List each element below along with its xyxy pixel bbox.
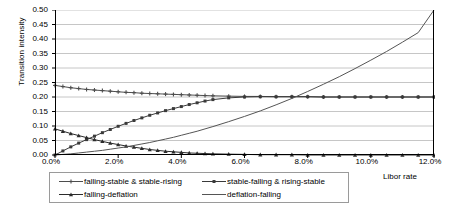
x-tick-label: 6.0% — [219, 158, 263, 166]
x-tick-label: 2.0% — [92, 158, 136, 166]
legend-key-square-icon — [201, 176, 227, 187]
x-tick-label: 8.0% — [282, 158, 326, 166]
y-tick-label: 0.20 — [2, 93, 48, 101]
plot-area — [51, 10, 430, 155]
y-axis-tick-labels: 0.000.050.100.150.200.250.300.350.400.45… — [0, 0, 48, 165]
legend-label: stable-falling & rising-stable — [227, 177, 325, 186]
legend-item-stable-falling-rising-stable: stable-falling & rising-stable — [201, 175, 348, 188]
legend-item-falling-deflation: falling-deflation — [50, 188, 201, 201]
chart-legend: falling-stable & stable-rising stable-fa… — [49, 172, 349, 203]
legend-label: falling-deflation — [84, 190, 138, 199]
legend-label: falling-stable & stable-rising — [84, 177, 182, 186]
legend-key-triangle-icon — [58, 189, 84, 200]
legend-key-line-icon — [201, 189, 227, 200]
legend-item-deflation-falling: deflation-falling — [201, 188, 348, 201]
chart-canvas — [51, 10, 435, 159]
y-tick-label: 0.50 — [2, 6, 48, 14]
chart-figure: Transition intensity 0.000.050.100.150.2… — [0, 0, 458, 217]
y-tick-label: 0.10 — [2, 122, 48, 130]
y-tick-label: 0.40 — [2, 35, 48, 43]
legend-key-cross-icon — [58, 176, 84, 187]
x-axis-tick-labels: 0.0%2.0%4.0%6.0%8.0%10.0%12.0% — [0, 158, 458, 170]
legend-label: deflation-falling — [227, 190, 281, 199]
y-tick-label: 0.25 — [2, 79, 48, 87]
legend-row: falling-deflation deflation-falling — [50, 188, 348, 201]
x-tick-label: 10.0% — [345, 158, 389, 166]
y-tick-label: 0.05 — [2, 137, 48, 145]
legend-item-falling-stable-stable-rising: falling-stable & stable-rising — [50, 175, 201, 188]
y-tick-label: 0.45 — [2, 21, 48, 29]
x-axis-title: Libor rate — [358, 172, 442, 181]
y-tick-label: 0.15 — [2, 108, 48, 116]
x-tick-label: 4.0% — [155, 158, 199, 166]
y-tick-label: 0.30 — [2, 64, 48, 72]
x-tick-label: 0.0% — [29, 158, 73, 166]
legend-row: falling-stable & stable-rising stable-fa… — [50, 175, 348, 188]
x-tick-label: 12.0% — [408, 158, 452, 166]
y-tick-label: 0.35 — [2, 50, 48, 58]
